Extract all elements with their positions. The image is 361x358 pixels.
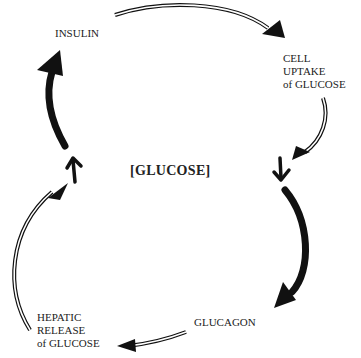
arrow-hepatic-release-to-glucose xyxy=(14,183,68,330)
hepatic-release-line-3: of GLUCOSE xyxy=(37,337,100,350)
up-arrow-icon xyxy=(67,158,81,182)
arrow-cell-uptake-to-glucose xyxy=(292,98,326,160)
hepatic-release-line-2: RELEASE xyxy=(37,324,100,337)
glucagon-label-text: GLUCAGON xyxy=(194,316,256,329)
cell-uptake-line-2: UPTAKE xyxy=(283,65,346,78)
insulin-label-text: INSULIN xyxy=(55,27,99,40)
glucose-center-label: [GLUCOSE] xyxy=(130,163,211,179)
hepatic-release-line-1: HEPATIC xyxy=(37,311,100,324)
cell-uptake-line-1: CELL xyxy=(283,52,346,65)
arrow-glucose-to-glucagon xyxy=(274,190,306,308)
insulin-label: INSULIN xyxy=(55,27,99,40)
glucagon-label: GLUCAGON xyxy=(194,316,256,329)
arrow-insulin-to-cell-uptake xyxy=(115,5,285,38)
cell-uptake-label: CELL UPTAKE of GLUCOSE xyxy=(283,52,346,91)
cell-uptake-line-3: of GLUCOSE xyxy=(283,78,346,91)
arrow-glucagon-to-hepatic-release xyxy=(117,332,186,352)
down-arrow-icon xyxy=(274,158,289,180)
glucose-regulation-diagram: INSULIN CELL UPTAKE of GLUCOSE [GLUCOSE]… xyxy=(0,0,361,358)
hepatic-release-label: HEPATIC RELEASE of GLUCOSE xyxy=(37,311,100,350)
arrow-glucose-to-insulin xyxy=(37,50,65,146)
